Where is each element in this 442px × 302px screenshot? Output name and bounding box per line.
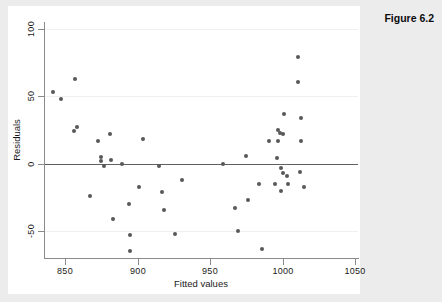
- scatter-point: [162, 208, 166, 212]
- scatter-point: [127, 202, 131, 206]
- scatter-point: [120, 162, 124, 166]
- y-tick-label-100: 100: [26, 21, 36, 37]
- scatter-point: [302, 185, 306, 189]
- scatter-point: [221, 162, 225, 166]
- x-tick-label-1000: 1000: [272, 266, 293, 276]
- scatter-point: [111, 217, 115, 221]
- x-tick-label-850: 850: [57, 266, 73, 276]
- plot-area: [44, 22, 358, 258]
- y-tick-mark-100: [38, 29, 44, 30]
- scatter-point: [233, 206, 237, 210]
- figure-caption: Figure 6.2: [384, 12, 434, 24]
- gridline-y-50: [45, 96, 358, 97]
- scatter-point: [88, 194, 92, 198]
- x-tick-label-1050: 1050: [344, 266, 365, 276]
- y-tick-label--50: -50: [26, 224, 36, 238]
- figure-container: 100500-50 85090095010001050 Residuals Fi…: [0, 0, 442, 302]
- x-tick-mark-1000: [283, 259, 284, 265]
- scatter-point: [298, 170, 302, 174]
- y-axis-line: [44, 22, 45, 259]
- scatter-point: [173, 232, 177, 236]
- scatter-point: [285, 174, 289, 178]
- scatter-point: [282, 112, 286, 116]
- scatter-point: [296, 80, 300, 84]
- scatter-point: [246, 198, 250, 202]
- scatter-point: [75, 125, 79, 129]
- y-tick-mark-0: [38, 164, 44, 165]
- y-axis-label: Residuals: [11, 119, 22, 161]
- x-tick-mark-900: [138, 259, 139, 265]
- scatter-point: [279, 166, 283, 170]
- scatter-point: [260, 247, 264, 251]
- scatter-point: [59, 97, 63, 101]
- x-tick-mark-850: [65, 259, 66, 265]
- zero-reference-line: [45, 164, 358, 165]
- scatter-point: [281, 171, 285, 175]
- scatter-point: [73, 77, 77, 81]
- scatter-point: [236, 229, 240, 233]
- x-axis-label: Fitted values: [174, 278, 228, 289]
- x-tick-label-950: 950: [202, 266, 218, 276]
- y-tick-label-0: 0: [26, 161, 36, 166]
- scatter-point: [244, 154, 248, 158]
- scatter-point: [281, 132, 285, 136]
- scatter-point: [279, 189, 283, 193]
- gridline-y--50: [45, 231, 358, 232]
- x-tick-label-900: 900: [130, 266, 146, 276]
- gridline-y-100: [45, 29, 358, 30]
- x-tick-mark-1050: [355, 259, 356, 265]
- scatter-point: [137, 185, 141, 189]
- scatter-point: [276, 139, 280, 143]
- x-tick-mark-950: [210, 259, 211, 265]
- y-tick-mark--50: [38, 231, 44, 232]
- y-tick-label-50: 50: [26, 91, 36, 102]
- scatter-point: [108, 132, 112, 136]
- y-tick-mark-50: [38, 96, 44, 97]
- x-axis-line: [44, 258, 359, 259]
